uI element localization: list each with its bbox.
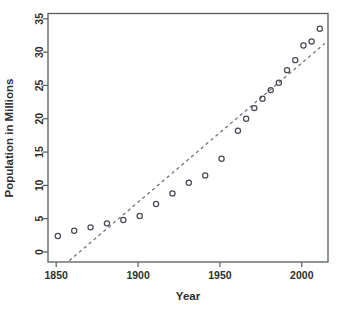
data-point [301, 43, 306, 48]
x-tick-label: 1950 [208, 269, 232, 281]
data-point [72, 228, 77, 233]
plot-canvas: 05101520253035 1850190019502000 Year Pop… [0, 0, 341, 309]
data-point [55, 233, 60, 238]
linear-fit-line [69, 43, 324, 260]
data-point [104, 221, 109, 226]
data-point [317, 26, 322, 31]
data-point [186, 180, 191, 185]
data-point [252, 106, 257, 111]
data-point [284, 68, 289, 73]
y-axis-title: Population in Millions [3, 79, 15, 198]
x-tick-label: 1850 [45, 269, 69, 281]
y-tick-label: 25 [33, 79, 45, 91]
data-point [244, 116, 249, 121]
data-point [219, 156, 224, 161]
data-point [309, 39, 314, 44]
y-tick-label: 30 [33, 46, 45, 58]
data-point [260, 96, 265, 101]
data-point [203, 173, 208, 178]
x-axis-tick-labels: 1850190019502000 [45, 269, 314, 281]
data-point-series [55, 26, 322, 238]
y-tick-label: 10 [33, 179, 45, 191]
y-tick-label: 5 [33, 216, 45, 222]
y-tick-label: 35 [33, 13, 45, 25]
x-axis-ticks [56, 262, 302, 267]
data-point [276, 80, 281, 85]
data-point [153, 201, 158, 206]
linear-fit-line [69, 43, 324, 260]
data-point [121, 217, 126, 222]
scatter-plot-figure: 05101520253035 1850190019502000 Year Pop… [0, 0, 341, 309]
y-axis-tick-labels: 05101520253035 [33, 13, 45, 255]
data-point [293, 58, 298, 63]
y-tick-label: 15 [33, 146, 45, 158]
data-point [88, 225, 93, 230]
data-point [137, 213, 142, 218]
x-tick-label: 2000 [290, 269, 314, 281]
y-tick-label: 0 [33, 249, 45, 255]
x-tick-label: 1900 [126, 269, 150, 281]
data-point [170, 191, 175, 196]
y-tick-label: 20 [33, 113, 45, 125]
data-point [235, 128, 240, 133]
x-axis-title: Year [176, 290, 201, 302]
